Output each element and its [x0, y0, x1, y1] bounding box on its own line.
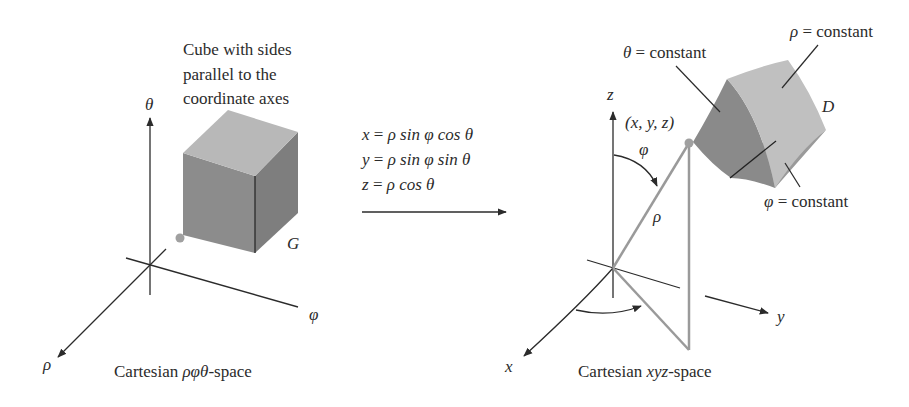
z-axis-label: z — [606, 85, 614, 104]
region-g-label: G — [287, 234, 299, 253]
y-axis-back — [587, 260, 680, 288]
spherical-wedge-d — [693, 60, 826, 188]
right-caption: Cartesian xyz-space — [578, 362, 712, 381]
equation-y: y = ρ sin φ sin θ — [360, 150, 470, 169]
point-xyz-dot — [685, 139, 694, 148]
equation-x: x = ρ sin φ cos θ — [361, 125, 473, 144]
theta-axis-label: θ — [145, 95, 153, 114]
figure-canvas: θ φ ρ G Cube with sides parallel to the … — [0, 0, 909, 407]
rho-ray-label: ρ — [652, 207, 661, 226]
phi-angle-arc — [614, 155, 657, 186]
region-d-label: D — [821, 97, 835, 116]
rho-constant-label: ρ = constant — [789, 22, 873, 41]
rho-axis-back — [150, 249, 166, 265]
phi-constant-label: φ = constant — [764, 192, 848, 211]
theta-angle-arc — [576, 306, 641, 313]
origin-corner-dot — [176, 234, 185, 243]
x-axis — [524, 268, 613, 356]
phi-angle-label: φ — [639, 140, 648, 159]
left-panel: θ φ ρ G Cube with sides parallel to the … — [42, 40, 318, 381]
y-axis-label: y — [775, 307, 785, 326]
spherical-coordinates-figure: θ φ ρ G Cube with sides parallel to the … — [0, 0, 909, 407]
theta-constant-label: θ = constant — [623, 43, 706, 62]
left-caption: Cartesian ρφθ-space — [114, 362, 252, 381]
point-xyz-label: (x, y, z) — [625, 113, 674, 132]
x-axis-label: x — [504, 357, 513, 376]
transform-equations: x = ρ sin φ cos θ y = ρ sin φ sin θ z = … — [360, 125, 506, 212]
rho-axis-label: ρ — [42, 355, 51, 374]
right-panel: z y x (x, y, z) φ ρ D θ = constant ρ = c… — [504, 22, 873, 381]
y-axis — [705, 296, 768, 313]
cube-note-line-3: coordinate axes — [183, 89, 289, 108]
cube-g — [176, 110, 299, 253]
theta-leader — [676, 66, 720, 112]
rho-axis — [58, 265, 150, 357]
projection-line — [613, 268, 689, 350]
cube-note-line-2: parallel to the — [183, 65, 276, 84]
phi-axis-label: φ — [309, 305, 318, 324]
cube-note-line-1: Cube with sides — [183, 40, 292, 59]
equation-z: z = ρ cos θ — [361, 175, 434, 194]
phi-axis — [126, 258, 298, 307]
rho-ray — [613, 143, 689, 268]
